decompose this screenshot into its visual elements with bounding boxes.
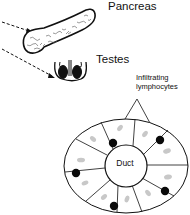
lymphocyte-dot [161,187,169,195]
lymphocyte-dot [72,169,80,177]
testes-illustration [55,60,87,81]
lymphocyte-dot [156,136,164,144]
pancreas-illustration [23,9,95,53]
pancreas-label: Pancreas [108,0,157,12]
infiltrating-label-line2: lymphocytes [136,82,178,91]
lymphocyte-dot [109,139,117,147]
arrowhead-icon [48,73,55,78]
infiltrating-lymphocytes-label: Infiltrating lymphocytes [136,73,178,91]
duct-label: Duct [105,158,145,168]
diagram-canvas [0,0,190,215]
infiltrating-label-line1: Infiltrating [136,73,178,82]
testes-label: Testes [96,53,129,65]
lymphocyte-dot [110,202,118,210]
